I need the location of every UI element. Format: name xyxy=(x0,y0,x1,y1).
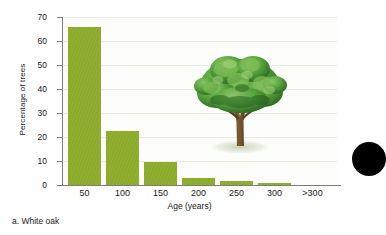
y-tick-label: 60 xyxy=(7,37,47,46)
y-tick-label: 50 xyxy=(7,61,47,70)
plot-area xyxy=(62,17,337,185)
y-tick-mark xyxy=(57,65,62,66)
bar xyxy=(182,178,215,185)
bar xyxy=(68,27,101,185)
bar xyxy=(144,162,177,185)
black-circle-bullet-icon xyxy=(352,142,386,176)
gridline xyxy=(62,17,337,18)
x-axis-line xyxy=(57,185,341,186)
y-tick-label: 0 xyxy=(7,181,47,190)
x-axis-title: Age (years) xyxy=(0,201,369,211)
y-tick-label: 10 xyxy=(7,157,47,166)
y-tick-label: 20 xyxy=(7,133,47,142)
y-tick-mark xyxy=(57,89,62,90)
y-tick-mark xyxy=(57,137,62,138)
y-axis-title: Percentage of trees xyxy=(18,30,27,170)
y-tick-mark xyxy=(57,185,62,186)
y-tick-label: 30 xyxy=(7,109,47,118)
gridline xyxy=(62,41,337,42)
y-tick-label: 70 xyxy=(7,13,47,22)
x-tick-label: >300 xyxy=(290,189,336,198)
y-tick-mark xyxy=(57,113,62,114)
figure-caption: a. White oak xyxy=(12,216,59,226)
y-tick-mark xyxy=(57,41,62,42)
y-axis-line xyxy=(62,17,63,186)
y-tick-mark xyxy=(57,161,62,162)
y-tick-label: 40 xyxy=(7,85,47,94)
y-tick-mark xyxy=(57,17,62,18)
oak-tree-photo xyxy=(190,50,290,158)
gridline xyxy=(62,161,337,162)
bar xyxy=(106,131,139,185)
